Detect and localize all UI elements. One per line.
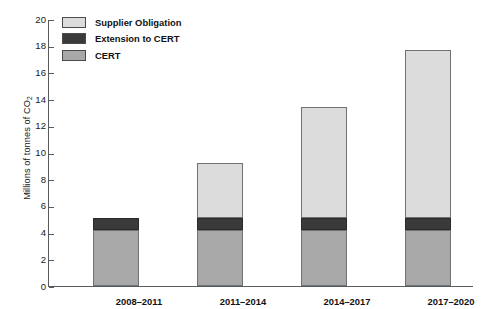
legend-item[interactable]: Supplier Obligation: [62, 14, 181, 31]
y-axis-tick-mark: [49, 260, 54, 261]
y-axis-tick-label: 10: [35, 147, 46, 158]
stacked-bar-chart: Millions of tonnes of CO2 20181614121086…: [0, 0, 482, 309]
legend-color-swatch: [62, 17, 86, 28]
y-axis-tick: 0: [8, 287, 54, 288]
y-axis-tick-mark: [49, 127, 54, 128]
bar-segment-cert[interactable]: [197, 230, 243, 286]
x-axis-category-label: 2017–2020: [391, 296, 482, 307]
y-axis-tick-mark: [49, 47, 54, 48]
y-axis-tick-mark: [49, 73, 54, 74]
x-axis-category-label: 2011–2014: [183, 296, 303, 307]
y-axis-tick-mark: [49, 180, 54, 181]
y-axis-tick-label: 6: [41, 200, 46, 211]
legend-item[interactable]: CERT: [62, 47, 181, 64]
legend-item[interactable]: Extension to CERT: [62, 31, 181, 48]
legend-item-label: Supplier Obligation: [95, 17, 181, 28]
bar-segment-supplier-obligation[interactable]: [197, 163, 243, 218]
y-axis-tick: 16: [8, 73, 54, 74]
chart-legend: Supplier ObligationExtension to CERTCERT: [62, 14, 181, 64]
y-axis-tick: 12: [8, 127, 54, 128]
y-axis-tick-label: 0: [41, 281, 46, 292]
y-axis-tick: 20: [8, 20, 54, 21]
bar-segment-cert[interactable]: [93, 230, 139, 286]
y-axis-tick-label: 20: [35, 14, 46, 25]
bar-segment-extension-to-cert[interactable]: [93, 218, 139, 230]
y-axis-tick-label: 18: [35, 40, 46, 51]
y-axis-tick-label: 12: [35, 120, 46, 131]
y-axis-tick-mark: [49, 20, 54, 21]
y-axis-tick-mark: [49, 207, 54, 208]
x-axis-category-label: 2008–2011: [79, 296, 199, 307]
legend-item-label: Extension to CERT: [95, 33, 179, 44]
bar-segment-cert[interactable]: [405, 230, 451, 286]
y-axis-title-text: Millions of tonnes of CO: [22, 100, 32, 200]
legend-color-swatch: [62, 33, 86, 44]
y-axis-tick: 10: [8, 154, 54, 155]
y-axis-tick-mark: [49, 154, 54, 155]
y-axis-tick-label: 2: [41, 254, 46, 265]
y-axis-tick: 4: [8, 234, 54, 235]
y-axis-tick: 14: [8, 100, 54, 101]
y-axis-tick-label: 14: [35, 94, 46, 105]
x-axis-category-label: 2014–2017: [287, 296, 407, 307]
y-axis-tick: 2: [8, 260, 54, 261]
bar-segment-cert[interactable]: [301, 230, 347, 286]
y-axis-tick: 18: [8, 47, 54, 48]
x-axis-line: [48, 286, 473, 287]
y-axis-tick-label: 8: [41, 174, 46, 185]
y-axis-tick-label: 4: [41, 227, 46, 238]
y-axis-tick-mark: [49, 100, 54, 101]
y-axis-tick-mark: [49, 234, 54, 235]
bar-segment-supplier-obligation[interactable]: [301, 107, 347, 218]
bar-segment-extension-to-cert[interactable]: [405, 218, 451, 230]
bar-segment-extension-to-cert[interactable]: [197, 218, 243, 230]
legend-color-swatch: [62, 50, 86, 61]
y-axis-tick-mark: [49, 287, 54, 288]
y-axis-tick-label: 16: [35, 67, 46, 78]
bar-segment-supplier-obligation[interactable]: [405, 50, 451, 218]
bar-segment-extension-to-cert[interactable]: [301, 218, 347, 230]
legend-item-label: CERT: [95, 50, 121, 61]
y-axis-tick: 6: [8, 207, 54, 208]
y-axis-tick: 8: [8, 180, 54, 181]
